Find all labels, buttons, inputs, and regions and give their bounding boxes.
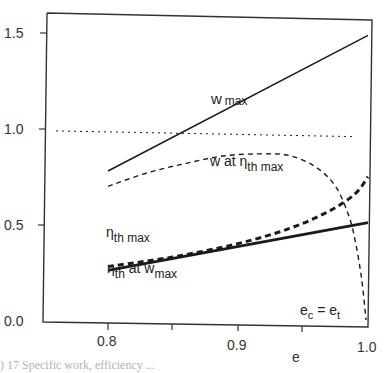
annotation-eta-th-at-w-max: ηth at wmax [107, 260, 177, 281]
svg-text:ηth at wmax: ηth at wmax [107, 260, 177, 281]
svg-text:w at ηth max: w at ηth max [209, 153, 283, 174]
annotation-w-at-eta-max: w at ηth max [209, 153, 283, 174]
annotation-w-max: wmax [210, 90, 248, 108]
y-tick-label: 1.5 [4, 25, 24, 41]
svg-text:wmax: wmax [210, 90, 248, 108]
series--th-max [108, 177, 368, 267]
y-axis [38, 33, 47, 225]
x-axis-label: e [292, 349, 300, 365]
y-tick-label: 1.0 [4, 121, 24, 137]
annotation-ec-equals-et: ec = et [300, 302, 340, 321]
svg-text:ηth max: ηth max [106, 224, 150, 245]
y-tick-labels: 1.5 1.0 0.5 0.0 [4, 25, 24, 329]
series-layer [56, 35, 368, 320]
x-tick-label: 1.0 [357, 339, 377, 355]
y-tick-label: 0.0 [4, 313, 24, 329]
svg-text:ec = et: ec = et [300, 302, 340, 321]
figure-caption: ) 17 Specific work, efficiency ... [0, 358, 155, 373]
annotation-eta-th-max: ηth max [106, 224, 150, 245]
plot-frame [43, 13, 372, 327]
x-tick-label: 0.9 [227, 337, 247, 353]
series-reference-dotted- [56, 131, 355, 137]
y-tick-label: 0.5 [4, 217, 24, 233]
x-tick-label: 0.8 [97, 333, 117, 349]
